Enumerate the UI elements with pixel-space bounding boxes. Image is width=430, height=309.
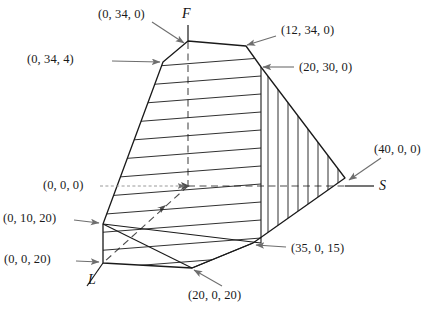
vertex-label-0-10-20: (0, 10, 20) — [3, 211, 56, 226]
vertex-label-0-0-20: (0, 0, 20) — [4, 252, 51, 267]
leader-20-0-20 — [194, 270, 222, 286]
leader-35-0-15 — [256, 245, 286, 247]
axis-label-f: F — [182, 6, 191, 22]
diagram-canvas: F S L (0, 34, 0) (12, 34, 0) (0, 34, 4) … — [0, 0, 430, 309]
polyhedron-figure — [0, 0, 430, 309]
leader-0-10-20 — [74, 220, 99, 223]
leader-0-0-20 — [76, 261, 99, 262]
leader-40-0-0 — [349, 158, 381, 180]
polyhedron-outline — [103, 41, 345, 268]
vertex-label-20-0-20: (20, 0, 20) — [188, 288, 241, 303]
l-axis — [87, 186, 188, 286]
axis-label-l: L — [88, 272, 96, 288]
vertex-label-20-30-0: (20, 30, 0) — [299, 60, 352, 75]
front-face-hatching — [80, 55, 300, 270]
leader-0-34-0 — [152, 22, 184, 43]
vertex-label-0-34-0: (0, 34, 0) — [98, 7, 145, 22]
vertex-label-12-34-0: (12, 34, 0) — [281, 23, 334, 38]
vertex-label-0-34-4: (0, 34, 4) — [27, 52, 74, 67]
leader-0-34-4 — [112, 61, 160, 62]
vertex-label-35-0-15: (35, 0, 15) — [291, 241, 344, 256]
vertex-label-0-0-0: (0, 0, 0) — [43, 178, 83, 193]
leader-12-34-0 — [247, 36, 276, 45]
vertex-label-40-0-0: (40, 0, 0) — [374, 142, 421, 157]
axis-label-s: S — [379, 178, 386, 194]
